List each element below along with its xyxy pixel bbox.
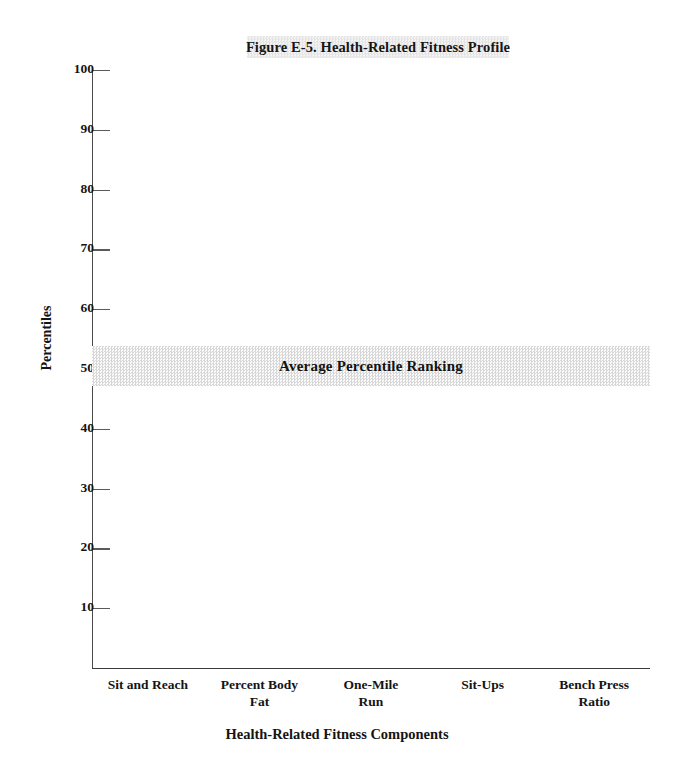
x-axis-category-label: Sit-Ups bbox=[427, 676, 539, 718]
y-axis-tick bbox=[93, 309, 110, 310]
x-axis-category-label: One-MileRun bbox=[315, 676, 427, 718]
y-axis-title: Percentiles bbox=[39, 278, 55, 398]
x-axis-category-line2: Ratio bbox=[538, 693, 650, 710]
chart-title: Figure E-5. Health-Related Fitness Profi… bbox=[247, 36, 509, 58]
y-axis-tick-label: 100 bbox=[48, 61, 94, 77]
y-axis-tick-label: 40 bbox=[48, 420, 94, 436]
y-axis-tick bbox=[93, 249, 110, 250]
y-axis-tick-label: 90 bbox=[48, 121, 94, 137]
x-axis-category-line1: Sit and Reach bbox=[108, 677, 188, 692]
y-axis-tick-label: 30 bbox=[48, 480, 94, 496]
y-axis-tick bbox=[93, 489, 110, 490]
x-axis-category-line1: One-Mile bbox=[344, 677, 399, 692]
x-axis-category-line1: Bench Press bbox=[559, 677, 629, 692]
x-axis-category-labels: Sit and ReachPercent BodyFatOne-MileRunS… bbox=[92, 676, 650, 718]
y-axis-tick-label: 80 bbox=[48, 181, 94, 197]
y-axis-tick bbox=[93, 608, 110, 609]
y-axis-tick bbox=[93, 130, 110, 131]
y-axis-tick bbox=[93, 429, 110, 430]
x-axis-category-line2: Fat bbox=[204, 693, 316, 710]
y-axis-tick bbox=[93, 548, 110, 549]
x-axis-line bbox=[92, 668, 650, 669]
average-percentile-band: Average Percentile Ranking bbox=[92, 346, 650, 386]
x-axis-category-line2: Run bbox=[315, 693, 427, 710]
x-axis-title: Health-Related Fitness Components bbox=[0, 726, 674, 743]
x-axis-category-line1: Sit-Ups bbox=[461, 677, 504, 692]
chart-figure: Figure E-5. Health-Related Fitness Profi… bbox=[0, 0, 674, 772]
x-axis-category-label: Percent BodyFat bbox=[204, 676, 316, 718]
y-axis-tick-label: 70 bbox=[48, 240, 94, 256]
x-axis-category-label: Bench PressRatio bbox=[538, 676, 650, 718]
y-axis-tick bbox=[93, 70, 110, 71]
x-axis-category-line1: Percent Body bbox=[221, 677, 298, 692]
average-percentile-band-label: Average Percentile Ranking bbox=[279, 358, 463, 375]
y-axis-tick bbox=[93, 190, 110, 191]
y-axis-tick-label: 20 bbox=[48, 539, 94, 555]
x-axis-category-label: Sit and Reach bbox=[92, 676, 204, 718]
y-axis-tick-label: 10 bbox=[48, 599, 94, 615]
